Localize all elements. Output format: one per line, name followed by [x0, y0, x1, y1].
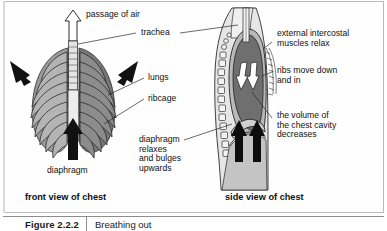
label-ribcage: ribcage: [148, 94, 176, 104]
label-external-intercostal: external intercostal muscles relax: [277, 29, 349, 48]
figure-root: passage of air trachea lungs ribcage dia…: [0, 0, 387, 231]
label-diaphragm: diaphragm: [47, 166, 88, 176]
figure-caption-bar: Figure 2.2.2 Breathing out: [3, 216, 384, 231]
figure-number: Figure 2.2.2: [25, 219, 79, 230]
side-view-title: side view of chest: [225, 192, 304, 202]
ribcage-right-shape: [80, 52, 116, 158]
label-volume-decreases: the volume of the chest cavity decreases: [277, 111, 336, 140]
inward-arrow-icon-left: [10, 61, 31, 86]
label-passage-of-air: passage of air: [86, 10, 140, 20]
label-trachea: trachea: [141, 28, 170, 38]
label-ribs-move-down: ribs move down and in: [277, 66, 337, 85]
up-arrow-outline-icon-air: [65, 10, 81, 41]
side-view-illustration: [215, 8, 277, 190]
label-diaphragm-relaxes: diaphragm relaxes and bulges upwards: [139, 135, 181, 173]
leader-trachea: [78, 33, 136, 44]
front-view-illustration: [10, 10, 138, 160]
figure-caption-text: Breathing out: [95, 219, 152, 230]
caption-divider: [86, 217, 87, 231]
side-trachea-shape: [243, 8, 249, 42]
ribcage-left-shape: [31, 52, 67, 158]
label-lungs: lungs: [148, 73, 169, 83]
front-view-title: front view of chest: [25, 192, 106, 202]
